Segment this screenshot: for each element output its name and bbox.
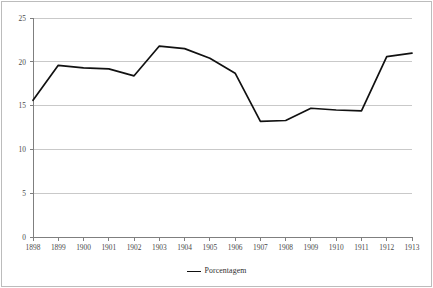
- x-tick-label-1910: 1910: [329, 243, 344, 252]
- y-tick-label-20: 20: [19, 58, 27, 67]
- x-tick-label-1907: 1907: [253, 243, 268, 252]
- y-axis: [30, 18, 33, 237]
- line-chart-plot: 0510152025 18981899190019011902190319041…: [0, 0, 433, 288]
- x-tick-label-1908: 1908: [278, 243, 293, 252]
- y-axis-tick-labels: 0510152025: [19, 14, 27, 242]
- x-tick-label-1912: 1912: [379, 243, 394, 252]
- x-tick-label-1904: 1904: [177, 243, 192, 252]
- y-tick-label-0: 0: [22, 233, 26, 242]
- y-tick-label-25: 25: [19, 14, 27, 23]
- x-tick-label-1899: 1899: [51, 243, 66, 252]
- x-tick-label-1902: 1902: [127, 243, 142, 252]
- x-tick-label-1905: 1905: [202, 243, 217, 252]
- data-series-lines: [33, 46, 412, 121]
- x-tick-label-1903: 1903: [152, 243, 167, 252]
- x-axis-tick-labels: 1898189919001901190219031904190519061907…: [26, 243, 420, 252]
- x-tick-label-1900: 1900: [76, 243, 91, 252]
- x-tick-label-1911: 1911: [354, 243, 369, 252]
- chart-container: 0510152025 18981899190019011902190319041…: [0, 0, 433, 288]
- gridlines: [33, 18, 412, 193]
- x-tick-label-1906: 1906: [228, 243, 243, 252]
- x-tick-label-1901: 1901: [101, 243, 116, 252]
- y-tick-label-5: 5: [22, 189, 26, 198]
- x-tick-label-1913: 1913: [405, 243, 420, 252]
- x-tick-label-1909: 1909: [304, 243, 319, 252]
- series-line-0: [33, 46, 412, 121]
- y-tick-label-10: 10: [19, 145, 27, 154]
- y-tick-label-15: 15: [19, 101, 27, 110]
- legend-line-swatch: [187, 271, 201, 272]
- x-axis: [33, 237, 412, 241]
- x-tick-label-1898: 1898: [26, 243, 41, 252]
- chart-legend: Porcentagem: [0, 264, 433, 278]
- legend-series-label: Porcentagem: [205, 267, 247, 275]
